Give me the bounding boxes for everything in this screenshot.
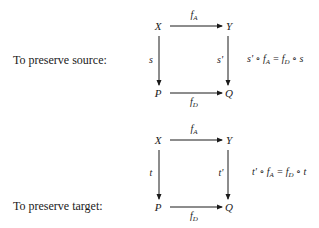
node-x: X xyxy=(155,21,162,32)
source-equation: s' ∘ fA = fD ∘ s xyxy=(247,54,303,66)
arrow-label-fd: fD xyxy=(190,97,198,109)
arrow-label-s: s xyxy=(149,55,153,65)
node-p: P xyxy=(155,202,162,213)
node-y: Y xyxy=(226,21,232,32)
arrow-lines xyxy=(0,0,319,228)
node-q: Q xyxy=(225,88,233,99)
arrow-label-fd: fD xyxy=(190,211,198,223)
arrow-label-t: t xyxy=(150,168,153,178)
node-y: Y xyxy=(226,135,232,146)
arrow-label-t-prime: t' xyxy=(219,168,224,178)
node-q: Q xyxy=(225,202,233,213)
arrow-label-fa: fA xyxy=(190,10,197,22)
target-equation: t' ∘ fA = fD ∘ t xyxy=(252,167,306,179)
arrow-label-s-prime: s' xyxy=(217,55,223,65)
arrow-label-fa: fA xyxy=(190,124,197,136)
node-x: X xyxy=(155,135,162,146)
target-caption: To preserve target: xyxy=(13,200,103,212)
source-caption: To preserve source: xyxy=(13,54,107,66)
node-p: P xyxy=(155,88,162,99)
